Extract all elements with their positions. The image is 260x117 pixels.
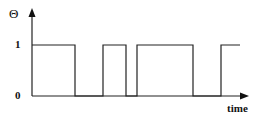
pulse-diagram: [0, 0, 260, 117]
x-axis-arrow: [240, 93, 249, 100]
y-tick-0: 0: [15, 89, 21, 101]
y-axis-label: Θ: [9, 6, 18, 22]
y-tick-1: 1: [15, 38, 21, 50]
x-axis-label: time: [227, 102, 248, 114]
pulse-signal: [32, 45, 240, 96]
y-axis-arrow: [29, 8, 36, 17]
